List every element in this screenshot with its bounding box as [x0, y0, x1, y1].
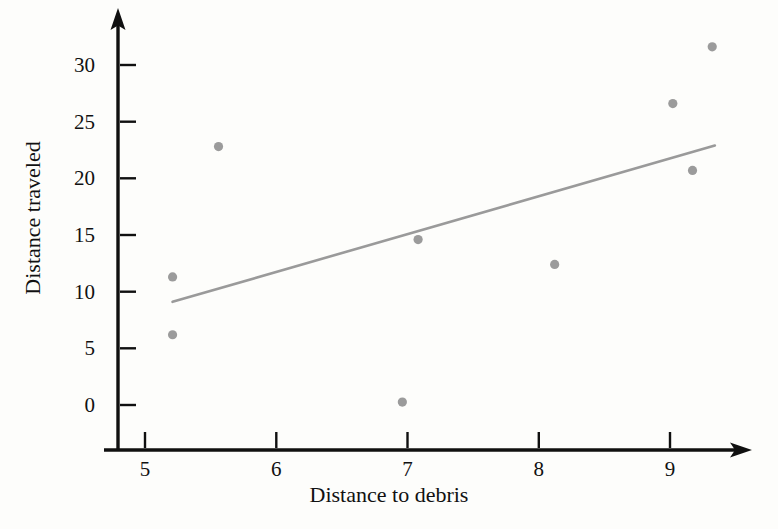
x-tick-marks: [145, 432, 670, 448]
x-tick-label: 8: [534, 457, 545, 482]
scatter-point: [214, 142, 223, 151]
x-axis-label: Distance to debris: [0, 482, 778, 508]
scatter-point: [168, 272, 177, 281]
plot-canvas: [0, 0, 778, 529]
y-tick-label: 10: [40, 279, 95, 304]
scatter-point: [168, 330, 177, 339]
y-tick-label: 25: [40, 109, 95, 134]
scatter-point: [708, 42, 717, 51]
y-axis-label: Distance traveled: [20, 88, 46, 348]
y-axis: [111, 8, 126, 450]
y-tick-label: 20: [40, 166, 95, 191]
y-tick-marks: [120, 65, 136, 405]
scatter-plot-figure: 0 5 10 15 20 25 30 5 6 7 8 9 Distance to…: [0, 0, 778, 529]
y-tick-label: 0: [40, 393, 95, 418]
y-tick-label: 5: [40, 336, 95, 361]
scatter-point: [668, 99, 677, 108]
scatter-point: [414, 235, 423, 244]
x-axis: [104, 443, 752, 458]
scatter-point: [688, 166, 697, 175]
x-tick-label: 9: [665, 457, 676, 482]
scatter-point: [550, 260, 559, 269]
x-tick-label: 7: [402, 457, 413, 482]
x-tick-label: 5: [140, 457, 151, 482]
regression-trend-line: [173, 145, 715, 301]
x-tick-label: 6: [271, 457, 282, 482]
y-tick-label: 15: [40, 223, 95, 248]
y-tick-label: 30: [40, 53, 95, 78]
scatter-point: [398, 397, 407, 406]
